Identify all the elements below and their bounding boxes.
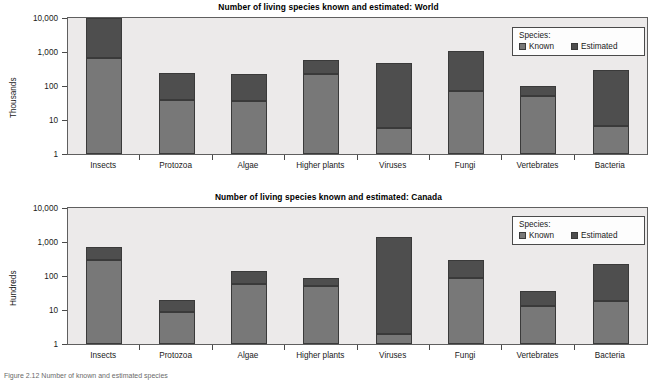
bar-segment-known bbox=[448, 278, 484, 344]
y-tick-mark bbox=[62, 18, 67, 19]
y-tick-mark bbox=[62, 120, 67, 121]
bar-protozoa[interactable] bbox=[159, 73, 195, 154]
bar-segment-known bbox=[376, 128, 412, 154]
y-tick-mark bbox=[62, 242, 67, 243]
y-tick-label: 10 bbox=[10, 306, 58, 315]
legend-canada: Species: Known Estimated bbox=[512, 216, 645, 245]
bar-vertebrates[interactable] bbox=[520, 291, 556, 344]
y-tick-mark bbox=[62, 86, 67, 87]
bar-segment-known bbox=[86, 260, 122, 344]
x-tick-label-higher-plants: Higher plants bbox=[296, 351, 344, 360]
bar-segment-estimated bbox=[448, 260, 484, 277]
y-tick-label: 10 bbox=[10, 116, 58, 125]
x-tick-label-vertebrates: Vertebrates bbox=[517, 161, 559, 170]
x-tick-mark bbox=[574, 155, 575, 160]
legend-swatch-known-icon bbox=[519, 232, 526, 239]
x-tick-mark bbox=[284, 345, 285, 350]
bar-bacteria[interactable] bbox=[593, 70, 629, 154]
x-tick-label-fungi: Fungi bbox=[455, 161, 475, 170]
x-tick-label-algae: Algae bbox=[237, 161, 258, 170]
bar-insects[interactable] bbox=[86, 18, 122, 154]
y-tick-label: 100 bbox=[10, 272, 58, 281]
x-tick-mark bbox=[429, 345, 430, 350]
x-tick-label-bacteria: Bacteria bbox=[595, 351, 625, 360]
chart-canada: Number of living species known and estim… bbox=[0, 190, 657, 377]
bar-higher-plants[interactable] bbox=[303, 60, 339, 154]
x-tick-label-algae: Algae bbox=[237, 351, 258, 360]
chart-title-canada: Number of living species known and estim… bbox=[0, 192, 657, 202]
x-tick-mark bbox=[212, 345, 213, 350]
bar-segment-estimated bbox=[86, 18, 122, 58]
x-tick-mark bbox=[357, 345, 358, 350]
x-tick-mark bbox=[139, 345, 140, 350]
bar-fungi[interactable] bbox=[448, 51, 484, 154]
x-tick-mark bbox=[501, 345, 502, 350]
legend-item-estimated[interactable]: Estimated bbox=[571, 42, 617, 51]
bar-segment-known bbox=[159, 100, 195, 154]
bar-vertebrates[interactable] bbox=[520, 86, 556, 154]
y-tick-mark bbox=[62, 52, 67, 53]
bar-segment-estimated bbox=[159, 73, 195, 100]
y-tick-label: 100 bbox=[10, 82, 58, 91]
x-tick-mark bbox=[357, 155, 358, 160]
bar-protozoa[interactable] bbox=[159, 300, 195, 344]
y-tick-label: 10,000 bbox=[10, 204, 58, 213]
legend-item-known[interactable]: Known bbox=[519, 42, 554, 51]
legend-label-known: Known bbox=[529, 42, 554, 51]
bar-algae[interactable] bbox=[231, 74, 267, 154]
bar-segment-known bbox=[231, 101, 267, 154]
bar-segment-estimated bbox=[593, 70, 629, 127]
bar-segment-estimated bbox=[448, 51, 484, 92]
legend-item-known[interactable]: Known bbox=[519, 231, 554, 240]
bar-segment-known bbox=[376, 334, 412, 344]
x-tick-mark bbox=[501, 155, 502, 160]
legend-title: Species: bbox=[519, 31, 638, 40]
y-tick-label: 1 bbox=[10, 340, 58, 349]
y-tick-label: 10,000 bbox=[10, 14, 58, 23]
legend-title: Species: bbox=[519, 220, 638, 229]
x-tick-label-insects: Insects bbox=[90, 351, 116, 360]
x-tick-label-bacteria: Bacteria bbox=[595, 161, 625, 170]
bar-segment-known bbox=[159, 312, 195, 344]
legend-swatch-estimated-icon bbox=[571, 232, 578, 239]
y-tick-mark bbox=[62, 208, 67, 209]
bar-segment-estimated bbox=[231, 74, 267, 101]
bar-viruses[interactable] bbox=[376, 63, 412, 154]
x-tick-label-insects: Insects bbox=[90, 161, 116, 170]
bar-insects[interactable] bbox=[86, 247, 122, 344]
bar-segment-estimated bbox=[520, 86, 556, 96]
bar-segment-estimated bbox=[231, 271, 267, 284]
legend-world: Species: Known Estimated bbox=[512, 27, 645, 56]
x-tick-mark bbox=[574, 345, 575, 350]
bar-segment-estimated bbox=[303, 278, 339, 286]
bar-segment-estimated bbox=[159, 300, 195, 312]
bar-segment-known bbox=[593, 126, 629, 154]
legend-label-estimated: Estimated bbox=[581, 231, 617, 240]
bar-segment-estimated bbox=[376, 237, 412, 334]
bar-segment-known bbox=[303, 286, 339, 344]
bar-segment-known bbox=[448, 91, 484, 154]
bar-segment-estimated bbox=[593, 264, 629, 301]
legend-item-estimated[interactable]: Estimated bbox=[571, 231, 617, 240]
bar-bacteria[interactable] bbox=[593, 264, 629, 344]
x-tick-label-vertebrates: Vertebrates bbox=[517, 351, 559, 360]
bar-fungi[interactable] bbox=[448, 260, 484, 344]
y-tick-mark bbox=[62, 344, 67, 345]
x-tick-label-viruses: Viruses bbox=[379, 161, 406, 170]
bar-algae[interactable] bbox=[231, 271, 267, 344]
legend-swatch-estimated-icon bbox=[571, 43, 578, 50]
chart-title-world: Number of living species known and estim… bbox=[0, 2, 657, 12]
bar-segment-known bbox=[231, 284, 267, 344]
x-tick-mark bbox=[212, 155, 213, 160]
bar-viruses[interactable] bbox=[376, 237, 412, 344]
legend-swatch-known-icon bbox=[519, 43, 526, 50]
bar-segment-estimated bbox=[376, 63, 412, 127]
x-tick-mark bbox=[139, 155, 140, 160]
figure-caption: Figure 2.12 Number of known and estimate… bbox=[4, 372, 168, 381]
x-tick-label-fungi: Fungi bbox=[455, 351, 475, 360]
y-tick-mark bbox=[62, 154, 67, 155]
x-tick-label-viruses: Viruses bbox=[379, 351, 406, 360]
bar-segment-known bbox=[303, 74, 339, 154]
bar-higher-plants[interactable] bbox=[303, 278, 339, 344]
bar-segment-estimated bbox=[86, 247, 122, 261]
